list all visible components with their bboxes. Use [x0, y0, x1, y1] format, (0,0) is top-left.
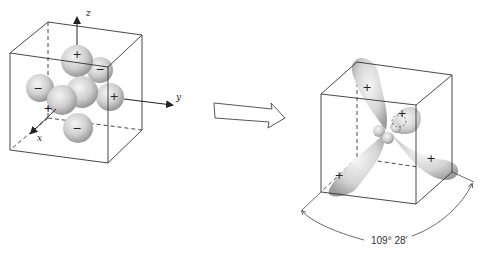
cube-edge	[108, 35, 142, 67]
sign-lower-right: +	[426, 152, 435, 165]
orbital-hybridization-diagram: z y x + − − + + −	[0, 0, 483, 256]
sp3-hybrid-lobes	[329, 58, 459, 196]
cube-edge	[321, 62, 357, 94]
cube-edge	[10, 22, 48, 53]
y-axis	[124, 99, 172, 105]
right-arrow-icon	[214, 103, 285, 128]
right-cube-diagram: + + + + 109° 28′	[302, 58, 474, 246]
cube-hidden-edge	[48, 118, 142, 130]
angle-arc-left	[302, 211, 364, 240]
sign-top: +	[72, 48, 81, 61]
transformation-arrow	[214, 103, 285, 128]
sign-upper-right: +	[397, 107, 406, 120]
sign-upper-left: +	[362, 81, 371, 94]
sign-lower-left: +	[334, 169, 343, 182]
angle-extension-line	[302, 192, 321, 210]
angle-extension-line	[452, 172, 474, 182]
cube-edge	[48, 22, 142, 35]
lobe-lower-left	[329, 134, 385, 197]
cube-edge	[416, 75, 452, 105]
z-axis-label: z	[85, 8, 91, 18]
sign-upper-right: −	[95, 63, 104, 76]
angle-arc-right	[412, 184, 472, 236]
y-axis-label: y	[175, 92, 182, 102]
small-lobe	[391, 123, 401, 133]
small-lobe	[382, 132, 394, 144]
cube-edge	[108, 130, 142, 163]
lobe-lower-right	[392, 134, 458, 180]
left-cube-diagram: z y x + − − + + −	[10, 8, 182, 163]
sign-left: −	[33, 82, 42, 95]
x-axis-label: x	[37, 133, 42, 143]
bond-angle-label: 109° 28′	[371, 235, 408, 246]
sign-right: +	[109, 90, 118, 103]
sign-bottom: −	[72, 122, 81, 135]
sign-front: +	[43, 102, 52, 115]
